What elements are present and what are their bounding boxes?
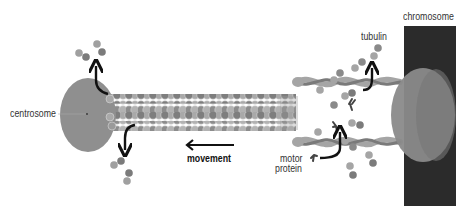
diagram-canvas [0, 0, 468, 216]
centrosome-label: centrosome [10, 108, 56, 119]
motor-protein-icon [311, 155, 317, 161]
motor-protein-icon [333, 122, 337, 131]
fiber-top [292, 77, 400, 87]
movement-label: movement [187, 153, 231, 164]
motor-protein-icon [349, 99, 355, 110]
mitosis-diagram: centrosome movement motor protein tubuli… [0, 0, 468, 216]
tubulin-label: tubulin [361, 31, 387, 42]
motor-protein-label-line2: protein [275, 163, 302, 174]
chromosome-label: chromosome [403, 11, 454, 22]
movement-arrow [187, 140, 234, 150]
